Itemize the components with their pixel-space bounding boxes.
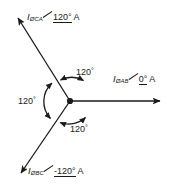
angle-sign-ca: [43, 12, 53, 22]
phasor-arrow-ca: [18, 18, 70, 101]
degree-symbol-left: °: [33, 96, 36, 103]
phasor-label-ca: IØCA120° A: [27, 12, 80, 23]
phasor-angle-bc: -120°: [54, 167, 76, 177]
phasor-unit-ab: A: [149, 74, 155, 84]
phasor-label-ab: IØAB0° A: [113, 74, 155, 85]
phasor-label-bc: IØBC-120° A: [28, 166, 84, 177]
phasor-vector-graphics: [0, 0, 177, 189]
angle-number-top: 120: [76, 67, 91, 77]
angle-number-bottom: 120: [70, 124, 85, 134]
phasor-subscript-ca: ØCA: [30, 16, 43, 22]
degree-symbol-bottom: °: [85, 124, 88, 131]
phasor-angle-ca: 120°: [53, 13, 72, 23]
phasor-diagram-canvas: IØCA120° A IØAB0° A IØBC-120° A 120° 120…: [0, 0, 177, 189]
angle-value-bottom: 120°: [70, 124, 88, 134]
angle-glyph-icon: [130, 74, 139, 83]
angle-value-left: 120°: [18, 96, 36, 106]
phasor-subscript-ab: ØAB: [116, 78, 129, 84]
angle-sign-bc: [44, 166, 54, 176]
angle-value-top: 120°: [76, 67, 94, 77]
angle-glyph-icon: [44, 12, 53, 21]
phasor-subscript-bc: ØBC: [31, 170, 44, 176]
phasor-unit-bc: A: [78, 166, 84, 176]
angle-arc-left: [44, 83, 52, 119]
degree-symbol-top: °: [91, 67, 94, 74]
angle-glyph-icon: [45, 166, 54, 175]
angle-arc-top: [61, 77, 84, 80]
origin-vertex-dot: [67, 98, 73, 104]
angle-sign-ab: [129, 74, 139, 84]
phasor-unit-ca: A: [74, 12, 80, 22]
phasor-angle-ab: 0°: [139, 75, 148, 85]
angle-number-left: 120: [18, 96, 33, 106]
